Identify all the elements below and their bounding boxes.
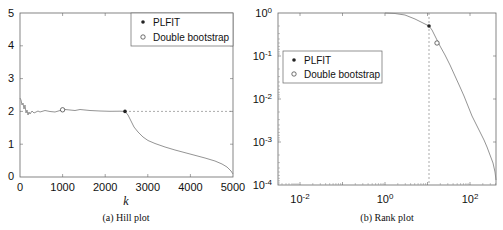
rank-xtick-1e-2: 10-2 bbox=[290, 192, 310, 205]
hill-xtick-3000: 3000 bbox=[136, 181, 160, 193]
hill-x-axis-label: k bbox=[123, 194, 129, 208]
hill-xtick-1000: 1000 bbox=[50, 181, 74, 193]
rank-legend-plfit: PLFIT bbox=[304, 55, 331, 66]
hill-legend-double-bootstrap: Double bootstrap bbox=[153, 32, 230, 43]
rank-x-ticks bbox=[300, 13, 470, 185]
rank-ytick-1e0: 100 bbox=[255, 6, 272, 19]
hill-ytick-0: 0 bbox=[8, 170, 14, 182]
legend-open-circle-icon bbox=[141, 35, 145, 39]
hill-double-bootstrap-marker bbox=[60, 108, 64, 112]
rank-plfit-marker bbox=[427, 24, 431, 28]
legend-filled-dot-icon bbox=[141, 20, 145, 24]
rank-curve bbox=[385, 13, 496, 180]
rank-ytick-1e-4: 10-4 bbox=[253, 178, 273, 191]
hill-plot: 0 1 2 3 4 5 0 1000 2000 3000 4000 5000 k… bbox=[8, 7, 245, 224]
hill-y-ticks bbox=[20, 46, 233, 144]
rank-legend: PLFIT Double bootstrap bbox=[283, 51, 382, 83]
legend-open-circle-icon bbox=[292, 72, 296, 76]
hill-curve bbox=[20, 98, 233, 174]
hill-plfit-marker bbox=[123, 110, 127, 114]
rank-ytick-1e-2: 10-2 bbox=[253, 92, 273, 105]
hill-xtick-4000: 4000 bbox=[178, 181, 202, 193]
rank-caption: (b) Rank plot bbox=[360, 212, 414, 224]
hill-caption: (a) Hill plot bbox=[102, 212, 149, 224]
hill-ytick-1: 1 bbox=[8, 138, 14, 150]
rank-xtick-1e0: 100 bbox=[377, 192, 394, 205]
rank-legend-double-bootstrap: Double bootstrap bbox=[304, 69, 381, 80]
figure: 0 1 2 3 4 5 0 1000 2000 3000 4000 5000 k… bbox=[0, 0, 503, 230]
rank-double-bootstrap-marker bbox=[435, 41, 439, 45]
hill-ytick-5: 5 bbox=[8, 7, 14, 19]
hill-ytick-2: 2 bbox=[8, 105, 14, 117]
rank-ytick-1e-1: 10-1 bbox=[253, 49, 273, 62]
rank-xtick-1e2: 102 bbox=[462, 192, 479, 205]
hill-legend: PLFIT Double bootstrap bbox=[131, 13, 233, 46]
rank-ytick-1e-3: 10-3 bbox=[253, 135, 273, 148]
legend-filled-dot-icon bbox=[292, 58, 296, 62]
hill-legend-plfit: PLFIT bbox=[153, 17, 180, 28]
rank-plot: 100 10-1 10-2 10-3 10-4 10-2 100 102 (b)… bbox=[253, 6, 496, 224]
hill-xtick-2000: 2000 bbox=[93, 181, 117, 193]
hill-xtick-0: 0 bbox=[17, 181, 23, 193]
rank-plot-axes bbox=[278, 13, 496, 185]
hill-ytick-4: 4 bbox=[8, 39, 14, 51]
hill-ytick-3: 3 bbox=[8, 72, 14, 84]
hill-xtick-5000: 5000 bbox=[221, 181, 245, 193]
